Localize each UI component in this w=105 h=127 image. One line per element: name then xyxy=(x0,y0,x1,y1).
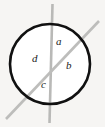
region-label-a: a xyxy=(56,36,62,47)
figure-canvas xyxy=(0,0,105,127)
region-label-c: c xyxy=(41,79,46,90)
region-label-b: b xyxy=(66,60,72,71)
region-label-d: d xyxy=(32,53,38,64)
geometry-figure: a b c d xyxy=(0,0,105,127)
